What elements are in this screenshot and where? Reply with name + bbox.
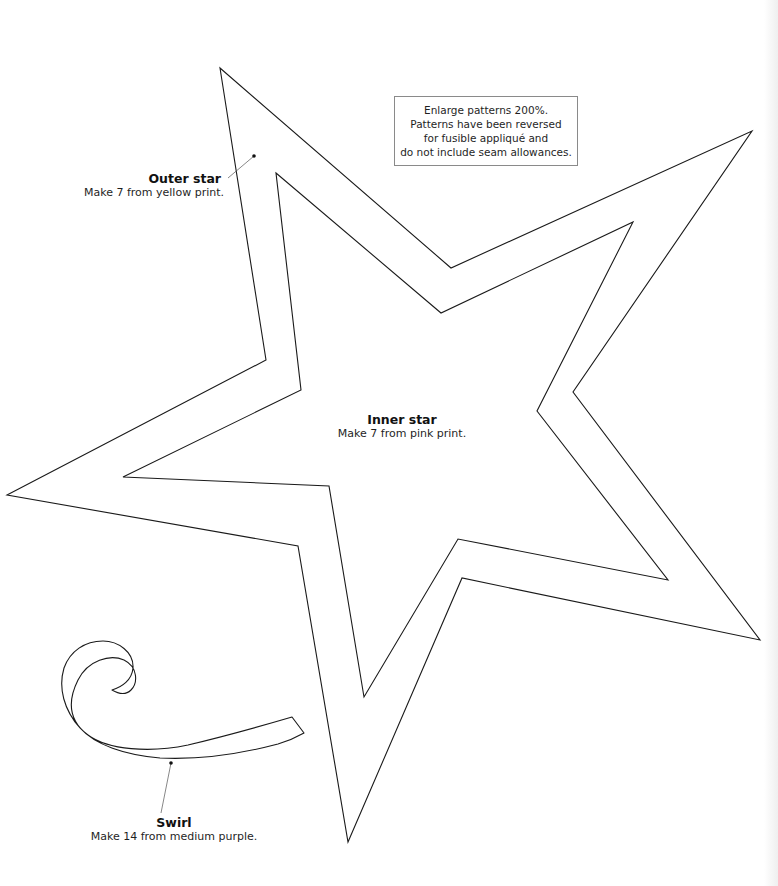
note-line: for fusible appliqué and — [424, 131, 548, 145]
pattern-artwork — [0, 0, 778, 886]
inner-star-label: Inner star Make 7 from pink print. — [330, 412, 474, 441]
outer-star-instruction: Make 7 from yellow print. — [80, 186, 224, 200]
swirl-label: Swirl Make 14 from medium purple. — [88, 815, 260, 844]
outer-star-leader-line — [228, 156, 254, 178]
note-line: Enlarge patterns 200%. — [424, 103, 548, 117]
enlarge-note-box: Enlarge patterns 200%. Patterns have bee… — [394, 96, 578, 166]
swirl-title: Swirl — [88, 815, 260, 830]
inner-star-instruction: Make 7 from pink print. — [330, 427, 474, 441]
swirl-leader-line — [161, 763, 171, 813]
inner-star-title: Inner star — [330, 412, 474, 427]
swirl-marker-dot — [169, 761, 173, 765]
pattern-page: Enlarge patterns 200%. Patterns have bee… — [0, 0, 778, 886]
outer-star-title: Outer star — [80, 171, 221, 186]
note-line: Patterns have been reversed — [410, 117, 561, 131]
outer-star-label: Outer star Make 7 from yellow print. — [80, 171, 224, 200]
swirl-instruction: Make 14 from medium purple. — [88, 830, 260, 844]
swirl-shape — [62, 641, 304, 758]
note-line: do not include seam allowances. — [400, 145, 572, 159]
outer-star-marker-dot — [252, 154, 256, 158]
